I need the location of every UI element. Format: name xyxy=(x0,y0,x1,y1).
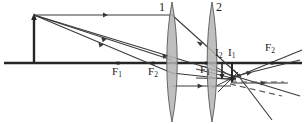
emergent-ray-horizontal xyxy=(233,81,288,86)
focal-point-F1-left-subscript: 1 xyxy=(118,70,122,79)
image-I1-label: I1 xyxy=(228,47,235,58)
image-I2-subscript: 2 xyxy=(219,51,223,60)
object-arrow xyxy=(31,13,37,63)
focal-point-F2-left-label: F2 xyxy=(148,66,158,77)
lens-2 xyxy=(207,2,217,122)
incident-ray-parallel xyxy=(34,13,172,18)
optics-ray-diagram: 1 2 F1 F2 F1 F2 I2 I1 xyxy=(0,0,306,124)
focal-point-F1-left-label: F1 xyxy=(112,66,122,77)
focal-point-F2-right-subscript: 2 xyxy=(271,46,275,55)
focal-point-F1-mid-subscript: 1 xyxy=(206,68,210,77)
focal-point-F2-left-subscript: 2 xyxy=(154,70,158,79)
image-I2-label: I2 xyxy=(215,47,222,58)
lens-1-label: 1 xyxy=(159,1,165,13)
virtual-ray-dashed-2 xyxy=(230,84,282,96)
focal-point-F2-right-label: F2 xyxy=(265,42,275,53)
image-I1-subscript: 1 xyxy=(232,51,236,60)
image-arrow-I1 xyxy=(229,63,234,84)
focal-point-F1-mid-label: F1 xyxy=(200,64,210,75)
lens-2-label: 2 xyxy=(216,1,222,13)
ray-diagram-canvas xyxy=(0,0,306,124)
lens-1 xyxy=(167,2,178,122)
